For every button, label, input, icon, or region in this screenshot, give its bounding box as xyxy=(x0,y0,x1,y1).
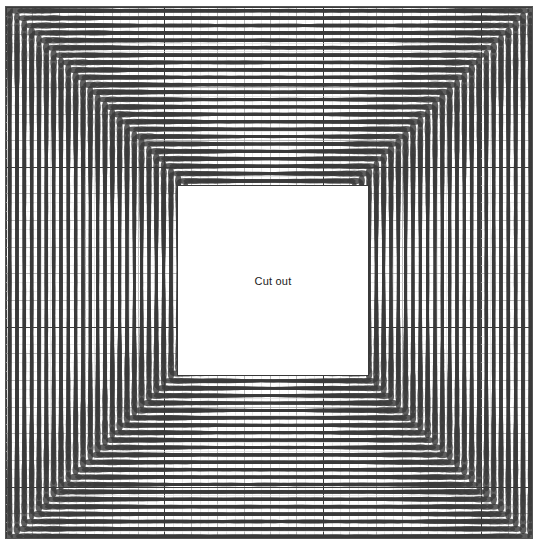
cutout-label: Cut out xyxy=(255,275,292,287)
cutout-region: Cut out xyxy=(177,185,369,376)
figure-root: Cut out xyxy=(0,0,546,554)
plot-area: Cut out xyxy=(5,6,533,539)
